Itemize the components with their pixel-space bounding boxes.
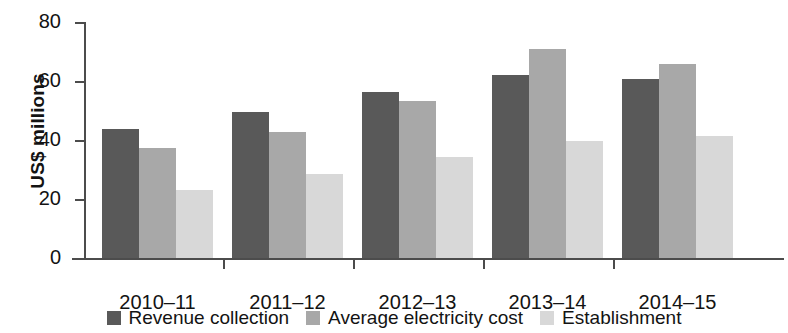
bar [362, 92, 399, 258]
chart-legend: Revenue collectionAverage electricity co… [0, 307, 788, 329]
x-tick [223, 260, 225, 269]
y-tick: 60 [75, 81, 84, 83]
y-tick: 80 [75, 22, 84, 24]
x-axis-line [72, 258, 784, 260]
y-tick-label: 60 [21, 69, 61, 92]
plot-area: 806040200 2010–112011–122012–132013–1420… [84, 22, 784, 258]
bar [696, 136, 733, 258]
legend-label: Establishment [562, 307, 681, 329]
bar [492, 75, 529, 258]
bar [102, 129, 139, 258]
y-tick-label: 0 [21, 246, 61, 269]
bar [529, 49, 566, 258]
y-tick: 40 [75, 140, 84, 142]
x-tick [353, 260, 355, 269]
y-tick: 0 [75, 258, 84, 260]
bar [399, 101, 436, 258]
bar [306, 174, 343, 258]
bar-group [232, 22, 343, 258]
bar [232, 112, 269, 258]
bar [436, 157, 473, 258]
y-tick: 20 [75, 199, 84, 201]
bar-group [622, 22, 733, 258]
bar-chart: US$ millions 806040200 2010–112011–12201… [0, 0, 788, 333]
legend-label: Average electricity cost [328, 307, 523, 329]
bar [176, 190, 213, 258]
legend-item[interactable]: Revenue collection [107, 307, 290, 329]
bar [139, 148, 176, 258]
legend-swatch-icon [306, 311, 320, 325]
bar [566, 141, 603, 258]
x-tick [613, 260, 615, 269]
legend-label: Revenue collection [129, 307, 290, 329]
y-axis-line [84, 22, 86, 259]
legend-swatch-icon [107, 311, 121, 325]
bar-group [362, 22, 473, 258]
y-tick-label: 20 [21, 187, 61, 210]
bar-group [102, 22, 213, 258]
bar [659, 64, 696, 258]
y-tick-label: 40 [21, 128, 61, 151]
x-tick [483, 260, 485, 269]
bar [269, 132, 306, 258]
bar [622, 79, 659, 258]
y-tick-label: 80 [21, 10, 61, 33]
legend-item[interactable]: Establishment [540, 307, 681, 329]
legend-swatch-icon [540, 311, 554, 325]
legend-item[interactable]: Average electricity cost [306, 307, 523, 329]
bar-group [492, 22, 603, 258]
